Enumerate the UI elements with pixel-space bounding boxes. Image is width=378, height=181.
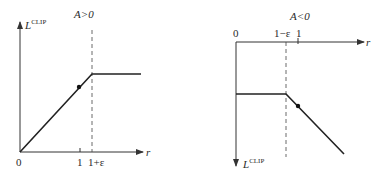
y-axis-superscript: CLIP [31,18,46,26]
data-point [77,85,81,89]
tick-label-1: 1 [296,28,302,39]
data-point [296,104,300,108]
x-axis-label: r [366,37,370,48]
panel-negative [236,38,364,166]
tick-label-1-plus-eps: 1+ε [88,157,104,168]
origin-label: 0 [16,157,22,168]
condition-label: A>0 [74,9,94,20]
y-axis-label: LCLIP [243,158,264,170]
origin-label: 0 [233,28,239,39]
x-axis-label: r [146,147,150,158]
y-axis-superscript: CLIP [249,157,264,165]
y-axis-label: LCLIP [25,19,46,31]
condition-label: A<0 [290,11,310,22]
tick-label-1-minus-eps: 1−ε [274,28,290,39]
clip-curve [236,94,344,154]
tick-label-1: 1 [77,157,83,168]
panel-positive [20,22,143,152]
diagram-canvas [0,0,378,181]
